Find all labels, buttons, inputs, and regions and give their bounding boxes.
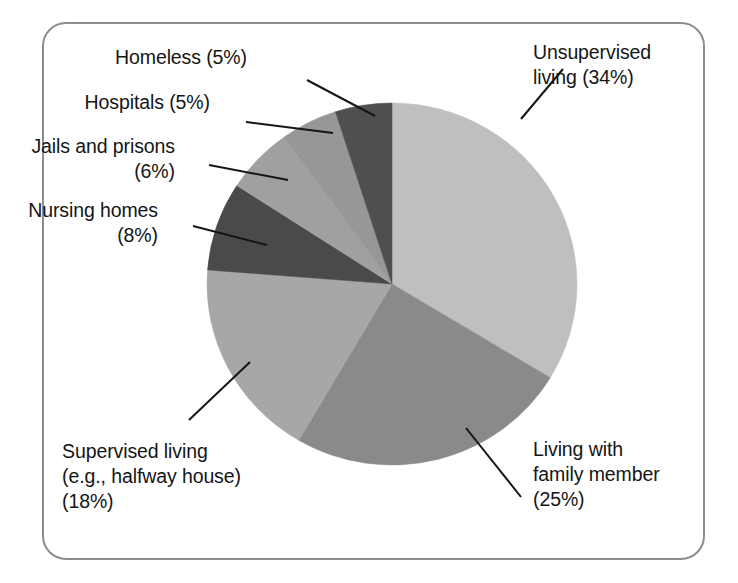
leader-line-living-family	[466, 428, 521, 497]
slice-label-homeless: Homeless (5%)	[115, 45, 247, 70]
pie-chart: Unsupervised living (34%) Living with fa…	[0, 0, 738, 583]
slice-label-unsupervised-living: Unsupervised living (34%)	[533, 40, 651, 90]
slice-label-nursing-homes: Nursing homes (8%)	[28, 198, 158, 248]
leader-line-supervised	[189, 362, 250, 420]
slice-label-jails-and-prisons: Jails and prisons (6%)	[31, 134, 175, 184]
slice-label-living-with-family-member: Living with family member (25%)	[533, 437, 660, 512]
pie-slice-group	[207, 103, 577, 465]
slice-label-hospitals: Hospitals (5%)	[85, 90, 210, 115]
slice-label-supervised-living: Supervised living (e.g., halfway house) …	[62, 439, 241, 514]
